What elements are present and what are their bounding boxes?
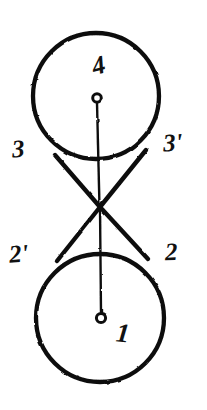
diagram-canvas: 4 3 3' 2' 2 1	[0, 0, 207, 410]
belt-line-upper-left	[55, 155, 100, 207]
label-2: 2	[165, 239, 178, 264]
bottom-radius-line	[100, 207, 101, 313]
bottom-center-mark-icon	[96, 313, 105, 322]
label-3-prime: 3'	[162, 130, 183, 156]
label-1: 1	[115, 319, 131, 347]
label-2-prime: 2'	[8, 240, 30, 267]
belt-line-lower-right	[100, 207, 148, 259]
top-radius-line	[97, 103, 100, 207]
label-3: 3	[11, 136, 25, 162]
top-center-mark-icon	[93, 94, 102, 103]
